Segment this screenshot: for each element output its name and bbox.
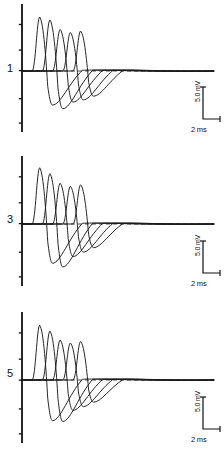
scale-bar: 5.0 mV 2 ms <box>184 240 224 290</box>
trace-panel: 1 5.0 mV 2 ms <box>0 0 224 148</box>
scale-bar: 5.0 mV 2 ms <box>184 396 224 446</box>
scale-bar: 5.0 mV 2 ms <box>184 86 224 136</box>
trace-figure: 1 5.0 mV 2 ms 3 5.0 mV 2 ms 5 <box>0 0 224 453</box>
scale-bar-horizontal-label: 2 ms <box>191 125 206 134</box>
scale-bar-horizontal-label: 2 ms <box>191 435 206 444</box>
scale-bar-vertical-label: 5.0 mV <box>194 75 201 109</box>
trace-panel: 3 5.0 mV 2 ms <box>0 148 224 300</box>
scale-bar-horizontal-label: 2 ms <box>191 279 206 288</box>
scale-bar-vertical-label: 5.0 mV <box>194 229 201 263</box>
scale-bar-vertical-label: 5.0 mV <box>194 385 201 419</box>
trace-panel: 5 5.0 mV 2 ms <box>0 300 224 453</box>
